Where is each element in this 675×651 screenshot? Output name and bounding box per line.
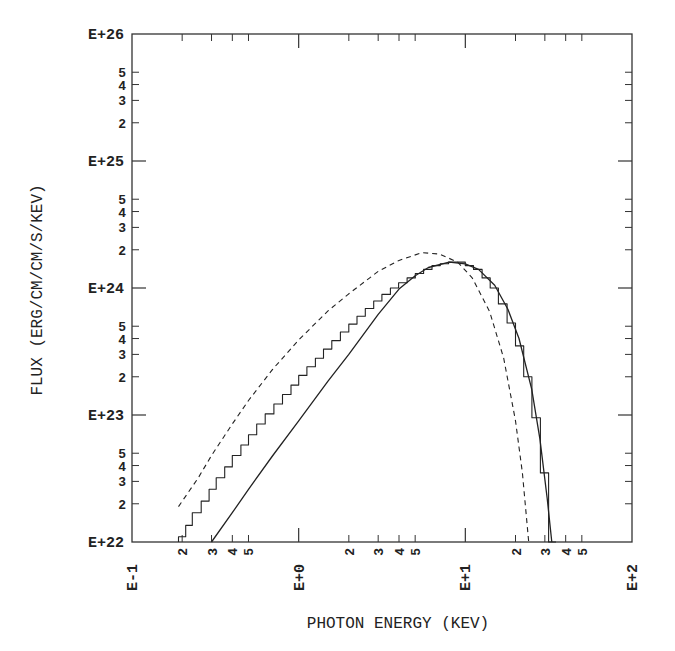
y-minor-label: 5 — [118, 320, 126, 335]
y-major-label: E+23 — [88, 408, 124, 425]
x-major-label: E+2 — [625, 564, 642, 591]
y-minor-label: 3 — [118, 348, 126, 363]
y-minor-label: 2 — [118, 117, 126, 132]
y-major-label: E+25 — [88, 154, 124, 171]
x-major-label: E-1 — [125, 564, 142, 591]
y-minor-label: 5 — [118, 193, 126, 208]
x-minor-label: 3 — [372, 548, 387, 556]
x-minor-label: 5 — [576, 548, 591, 556]
series-dashed-model — [179, 253, 529, 542]
spectrum-chart: E+222345E+232345E+242345E+252345E+26E-12… — [0, 0, 675, 651]
plot-border — [132, 34, 632, 542]
x-minor-label: 2 — [343, 548, 358, 556]
x-minor-label: 3 — [206, 548, 221, 556]
x-major-label: E+1 — [458, 564, 475, 591]
y-minor-label: 3 — [118, 94, 126, 109]
y-major-label: E+24 — [88, 281, 124, 298]
x-minor-label: 2 — [510, 548, 525, 556]
x-minor-label: 4 — [393, 548, 408, 556]
x-axis-title: PHOTON ENERGY (KEV) — [307, 615, 489, 633]
y-major-label: E+22 — [88, 535, 124, 552]
y-axis-title: FLUX (ERG/CM/CM/S/KEV) — [29, 184, 47, 395]
data-series — [179, 253, 557, 542]
x-minor-label: 4 — [560, 548, 575, 556]
y-minor-label: 2 — [118, 244, 126, 259]
y-minor-label: 5 — [118, 447, 126, 462]
y-minor-label: 3 — [118, 475, 126, 490]
y-major-label: E+26 — [88, 27, 124, 44]
y-minor-label: 2 — [118, 371, 126, 386]
x-minor-label: 5 — [242, 548, 257, 556]
axis-ticks — [132, 34, 632, 542]
x-minor-label: 2 — [176, 548, 191, 556]
y-minor-label: 2 — [118, 498, 126, 513]
x-minor-label: 4 — [226, 548, 241, 556]
y-minor-label: 5 — [118, 66, 126, 81]
x-major-label: E+0 — [292, 564, 309, 591]
y-minor-label: 3 — [118, 221, 126, 236]
x-minor-label: 3 — [539, 548, 554, 556]
series-histogram-data — [179, 262, 557, 542]
x-minor-label: 5 — [409, 548, 424, 556]
plot-frame — [132, 34, 632, 542]
